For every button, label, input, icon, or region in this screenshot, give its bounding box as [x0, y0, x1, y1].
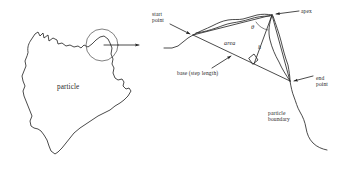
apex-label: apex: [301, 8, 312, 14]
boundary-incoming-path: [164, 35, 193, 48]
triangle-height-line: [254, 15, 272, 64]
triangle-side-start-apex: [193, 15, 272, 35]
particle-boundary-label: particle boundary: [268, 110, 290, 123]
end-point-label: end point: [316, 75, 328, 88]
apex-leader: [276, 11, 299, 14]
area-label: area: [224, 40, 236, 46]
theta-label: θ: [251, 24, 254, 30]
start-point-leader: [170, 24, 190, 34]
figure-canvas: particle start point apex θ h area base …: [0, 0, 337, 169]
figure-vector-layer: [0, 0, 337, 169]
boundary-right-rough-path: [269, 15, 290, 81]
end-point-leader: [294, 76, 313, 81]
height-label: h: [258, 44, 261, 50]
particle-outline-path: [22, 32, 131, 154]
base-leader: [212, 56, 231, 68]
boundary-trailing-path: [290, 81, 327, 150]
particle-label: particle: [57, 84, 79, 90]
triangle-side-apex-end: [272, 15, 290, 81]
theta-angle-arc: [256, 22, 268, 30]
base-step-length-label: base (step length): [177, 70, 218, 76]
start-point-label: start point: [152, 11, 164, 24]
